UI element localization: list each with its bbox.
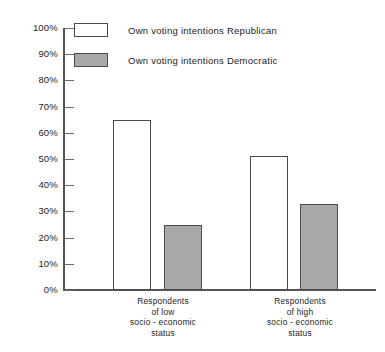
y-axis-tick <box>65 185 74 186</box>
y-axis-tick-label-wrap: 60% <box>12 127 58 139</box>
y-axis-tick-label-wrap: 100% <box>12 22 58 34</box>
bar-democratic-group-0 <box>164 225 202 291</box>
y-axis-tick-label: 70% <box>18 101 58 112</box>
y-axis-tick-label-wrap: 70% <box>12 101 58 113</box>
bar-chart: 100%90%80%70%60%50%40%30%20%10%0% Respon… <box>0 0 385 352</box>
legend-label-republican: Own voting intentions Republican <box>128 25 277 36</box>
y-axis-tick <box>65 54 74 55</box>
y-axis-tick-label-wrap: 20% <box>12 232 58 244</box>
y-axis-tick-label-wrap: 10% <box>12 258 58 270</box>
y-axis-tick-label: 90% <box>18 48 58 59</box>
y-axis-tick <box>65 80 74 81</box>
y-axis-tick-label-wrap: 40% <box>12 179 58 191</box>
y-axis-tick <box>65 107 74 108</box>
y-axis-tick-label-wrap: 0% <box>12 284 58 296</box>
y-axis-tick <box>65 159 74 160</box>
legend-label-democratic: Own voting intentions Democratic <box>128 55 278 66</box>
y-axis-tick <box>65 28 74 29</box>
bar-republican-group-0 <box>113 120 151 290</box>
y-axis-tick-label: 20% <box>18 232 58 243</box>
y-axis-tick <box>65 133 74 134</box>
y-axis-tick <box>65 238 74 239</box>
group-label-line: socio - economic <box>225 317 375 328</box>
y-axis-tick-label: 10% <box>18 258 58 269</box>
x-axis-group-label-low: Respondents of low socio - economic stat… <box>88 296 238 338</box>
legend-item-republican: Own voting intentions Republican <box>74 22 277 38</box>
y-axis-tick-label: 50% <box>18 153 58 164</box>
group-label-line: of low <box>88 307 238 318</box>
group-label-line: socio - economic <box>88 317 238 328</box>
y-axis-tick-label-wrap: 50% <box>12 153 58 165</box>
y-axis-tick-label: 0% <box>18 284 58 295</box>
y-axis-tick-label: 60% <box>18 127 58 138</box>
bar-democratic-group-1 <box>300 204 338 290</box>
y-axis-tick-label: 80% <box>18 74 58 85</box>
group-label-line: Respondents <box>88 296 238 307</box>
y-axis-tick <box>65 211 74 212</box>
y-axis-tick <box>65 264 74 265</box>
y-axis-tick <box>65 290 74 291</box>
legend-swatch-republican-icon <box>74 23 108 37</box>
y-axis-tick-label-wrap: 80% <box>12 74 58 86</box>
group-label-line: status <box>225 328 375 339</box>
y-axis-tick-label: 100% <box>18 22 58 33</box>
y-axis-tick-label: 30% <box>18 205 58 216</box>
group-label-line: Respondents <box>225 296 375 307</box>
group-label-line: status <box>88 328 238 339</box>
legend-swatch-democratic-icon <box>74 53 108 67</box>
legend-item-democratic: Own voting intentions Democratic <box>74 52 278 68</box>
y-axis-tick-label-wrap: 30% <box>12 205 58 217</box>
bar-republican-group-1 <box>250 156 288 290</box>
y-axis-tick-label-wrap: 90% <box>12 48 58 60</box>
group-label-line: of high <box>225 307 375 318</box>
y-axis-tick-label: 40% <box>18 179 58 190</box>
x-axis-group-label-high: Respondents of high socio - economic sta… <box>225 296 375 338</box>
